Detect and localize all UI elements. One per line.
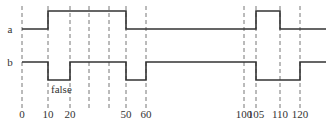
time-tick-label: 105 [248, 108, 265, 120]
timing-diagram-canvas: 010205060100105110120abfalse [0, 0, 331, 133]
timing-diagram: 010205060100105110120abfalse [0, 0, 331, 133]
false-annotation: false [51, 83, 72, 95]
time-tick-label: 20 [65, 108, 77, 120]
time-tick-label: 10 [43, 108, 55, 120]
time-tick-label: 50 [121, 108, 133, 120]
labels: 010205060100105110120abfalse [7, 23, 309, 120]
time-tick-label: 60 [141, 108, 153, 120]
signal-b-label: b [7, 56, 13, 68]
signal-a-label: a [8, 23, 13, 35]
signal-a-waveform [22, 11, 326, 29]
time-tick-label: 120 [292, 108, 309, 120]
time-tick-label: 110 [272, 108, 289, 120]
time-tick-label: 0 [19, 108, 25, 120]
